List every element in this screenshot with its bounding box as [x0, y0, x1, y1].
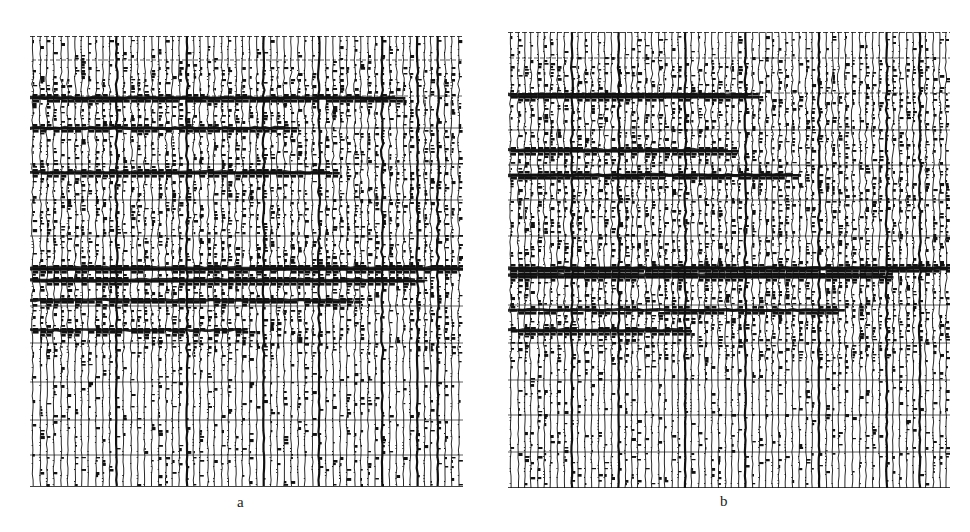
- seismic-section-a: [30, 36, 463, 487]
- seismic-section-a-plot: [30, 36, 463, 487]
- seismic-section-b-plot: [508, 32, 950, 488]
- panel-b-caption: b: [720, 493, 728, 510]
- panel-a-caption: a: [237, 494, 244, 511]
- seismic-section-b: [508, 32, 950, 488]
